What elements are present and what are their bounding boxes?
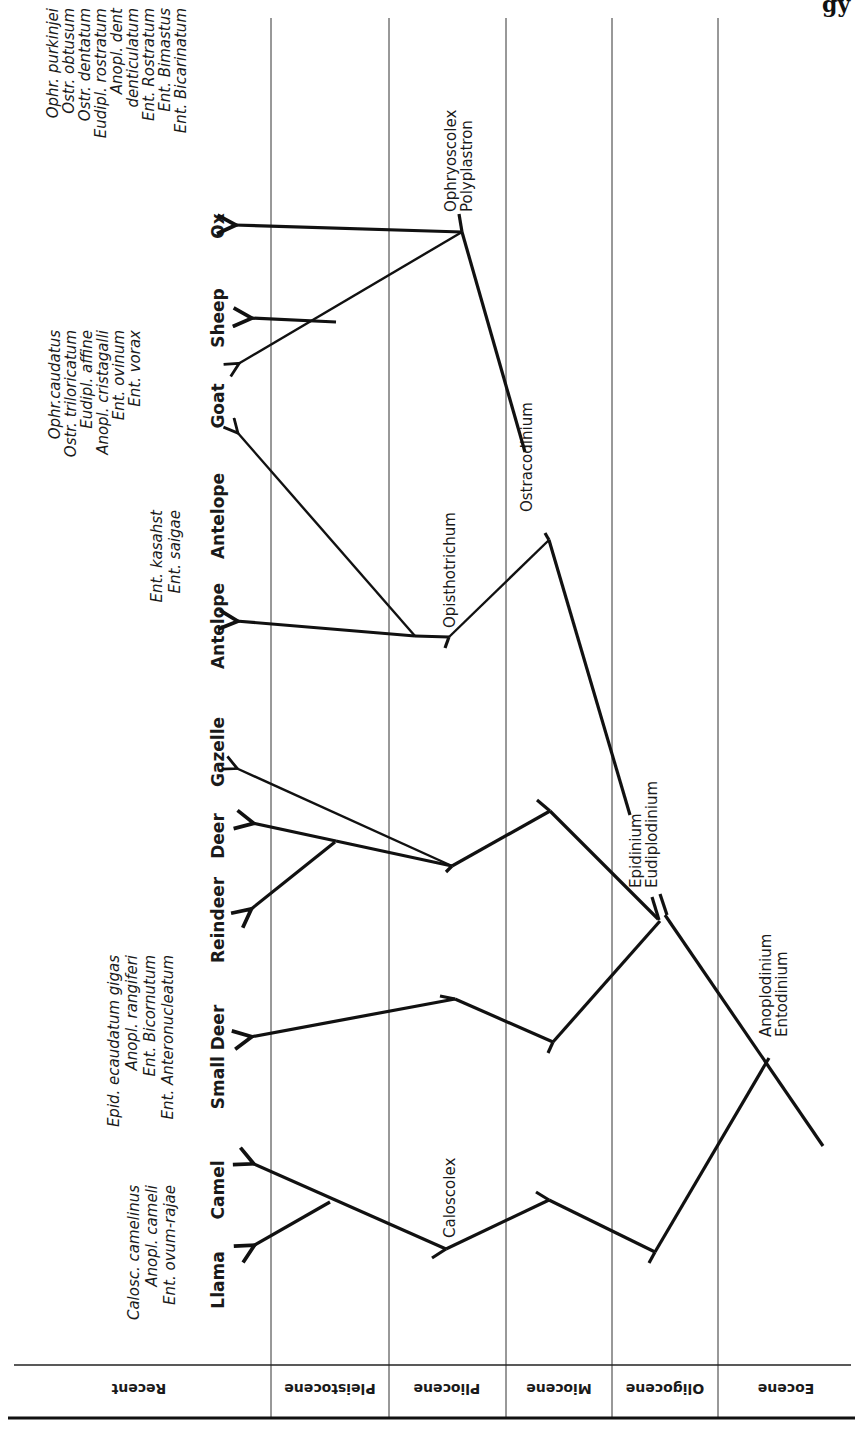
host-antelope-1: Antelope <box>208 473 228 559</box>
genus-polyplastron: Polyplastron <box>458 120 476 212</box>
epoch-label-miocene: Miocene <box>526 1381 592 1397</box>
host-labels: Ox Sheep Goat Antelope Antelope Gazelle … <box>208 213 228 1308</box>
species-list-sheep-goat: Ophr.caudatus Ostr. triloricatum Eudipl.… <box>46 329 144 457</box>
host-antelope-2: Antelope <box>208 583 228 669</box>
epoch-label-recent: Recent <box>111 1381 166 1397</box>
host-ox: Ox <box>208 213 228 238</box>
epoch-label-eocene: Eocene <box>758 1381 814 1397</box>
species-line: Ent. Bicarinatum <box>172 8 190 133</box>
host-llama: Llama <box>208 1251 228 1308</box>
species-line: Ent. Bicornutum <box>141 955 159 1076</box>
host-sheep: Sheep <box>208 288 228 348</box>
epoch-labels: Recent Pleistocene Pliocene Miocene Olig… <box>111 1381 814 1397</box>
genus-eudiplodinium: Eudiplodinium <box>643 781 661 888</box>
phylogeny-branches <box>234 214 823 1263</box>
species-list-deer-reindeer: Epid. ecaudatum gigas Anopl. rangiferi E… <box>105 954 177 1127</box>
genus-opisthotrichum: Opisthotrichum <box>441 512 459 628</box>
epoch-label-oligocene: Oligocene <box>626 1381 704 1397</box>
genus-caloscolex: Caloscolex <box>441 1158 459 1238</box>
species-list-antelope: Ent. kasahst Ent. saigae <box>148 509 184 603</box>
epoch-label-pliocene: Pliocene <box>414 1381 481 1397</box>
species-list-camel-llama: Calosc. camelinus Anopl. cameli Ent. ovu… <box>125 1184 179 1320</box>
genus-ostracodinium: Ostracodinium <box>518 402 536 512</box>
genus-entodinium: Entodinium <box>773 951 791 1037</box>
host-goat: Goat <box>208 383 228 428</box>
species-line: Anopl. cameli <box>143 1184 161 1288</box>
genus-labels: Ophryoscolex Polyplastron Ostracodinium … <box>441 110 791 1238</box>
species-line: Anopl. rangiferi <box>123 954 141 1071</box>
species-line: Ent. kasahst <box>148 509 166 603</box>
species-line: Epid. ecaudatum gigas <box>105 955 123 1127</box>
host-deer: Deer <box>208 813 228 859</box>
page-corner-text: gy <box>822 0 851 17</box>
species-line: Ent. Anteronucleatum <box>159 955 177 1119</box>
species-line: Ent. ovum-rajae <box>161 1185 179 1305</box>
host-camel: Camel <box>208 1160 228 1219</box>
species-line: Ent. saigae <box>166 510 184 594</box>
epoch-label-pleistocene: Pleistocene <box>284 1381 375 1397</box>
species-list-ox: Ophr. purkinjei Ostr. obtusum Ostr. dent… <box>44 7 190 138</box>
phylogeny-diagram: gy Recent Pleistocene Pliocene Miocene O… <box>0 0 859 1454</box>
host-gazelle: Gazelle <box>208 717 228 787</box>
host-reindeer: Reindeer <box>208 876 228 963</box>
species-line: Calosc. camelinus <box>125 1185 143 1320</box>
host-small-deer: Small Deer <box>208 1004 228 1109</box>
species-line: Ent. vorax <box>126 330 144 407</box>
